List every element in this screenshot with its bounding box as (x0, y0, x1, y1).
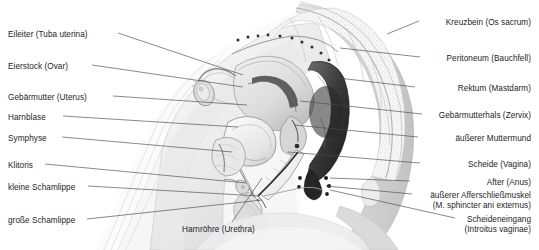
label-aeusserer-muttermund: äußerer Muttermund (455, 134, 531, 144)
label-gebaermutter: Gebärmutter (Uterus) (8, 93, 87, 103)
leader-kreuzbein (387, 21, 419, 34)
label-kleine-schamlippe: kleine Schamlippe (8, 183, 75, 193)
label-grosse-schamlippe: große Schamlippe (8, 216, 75, 226)
label-rektum: Rektum (Mastdarm) (458, 84, 531, 94)
label-sphinkter-line1: äußerer Afferschließmuskel (430, 191, 531, 201)
label-peritoneum: Peritoneum (Bauchfell) (447, 54, 531, 64)
label-harnblase: Harnblase (8, 113, 46, 123)
label-symphyse: Symphyse (8, 134, 47, 144)
label-after: After (Anus) (487, 178, 531, 188)
figure-canvas: Eileiter (Tuba uterina) Eierstock (Ovar)… (0, 0, 539, 250)
label-eierstock: Eierstock (Ovar) (8, 62, 68, 72)
label-scheideneingang-line1: Scheideneingang (467, 215, 531, 225)
label-gebaermutterhals: Gebärmutterhals (Zervix) (439, 111, 531, 121)
label-scheideneingang-line2: (Introitus vaginae) (465, 225, 531, 235)
label-kreuzbein: Kreuzbein (Os sacrum) (446, 18, 531, 28)
label-harnroehre: Harnröhre (Urethra) (182, 225, 255, 235)
label-scheide: Scheide (Vagina) (468, 160, 531, 170)
label-klitoris: Klitoris (8, 161, 33, 171)
label-eileiter: Eileiter (Tuba uterina) (8, 30, 88, 40)
label-sphinkter-line2: (M. sphincter ani externus) (433, 201, 531, 211)
